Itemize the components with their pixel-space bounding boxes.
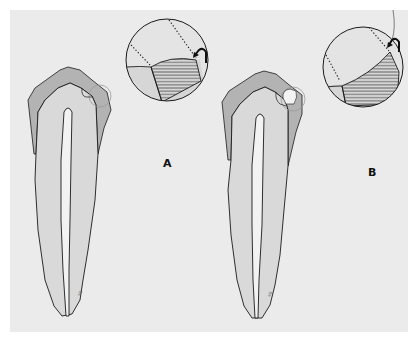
tooth-a: sig [28, 67, 111, 316]
panel-label-b: B [368, 167, 376, 178]
illustration-canvas: sig sig [10, 10, 408, 332]
tooth-b: sig [222, 71, 305, 318]
inset-detail-b [320, 10, 408, 110]
restoration-fill-b [283, 89, 297, 104]
inset-detail-a [120, 19, 208, 110]
dental-figure: sig sig [10, 10, 408, 332]
panel-label-a: A [163, 158, 172, 169]
pointer-line-b [392, 10, 394, 40]
